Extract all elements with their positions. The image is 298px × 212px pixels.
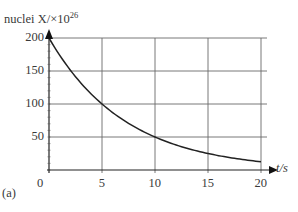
x-tick-label: 10 xyxy=(149,176,162,191)
x-tick-label: 0 xyxy=(37,176,43,191)
gridlines xyxy=(49,38,267,173)
y-tick-label: 50 xyxy=(32,129,45,144)
y-tick-label: 150 xyxy=(25,63,44,78)
y-axis-label-exponent: 26 xyxy=(70,10,79,20)
y-tick-label: 200 xyxy=(25,30,44,45)
y-axis-label: nuclei X/×1026 xyxy=(4,10,78,27)
x-axis-label: t/s xyxy=(276,161,288,176)
x-tick-label: 15 xyxy=(202,176,215,191)
minor-ticks xyxy=(48,38,51,170)
y-axis-label-text: nuclei X/×10 xyxy=(4,12,70,26)
axes xyxy=(47,34,269,173)
y-axis-arrow-icon xyxy=(45,29,53,39)
x-tick-label: 20 xyxy=(255,176,268,191)
y-tick-label: 100 xyxy=(25,96,44,111)
x-tick-label: 5 xyxy=(99,176,105,191)
panel-label: (a) xyxy=(2,186,16,201)
x-axis-label-text: t/s xyxy=(276,161,288,175)
